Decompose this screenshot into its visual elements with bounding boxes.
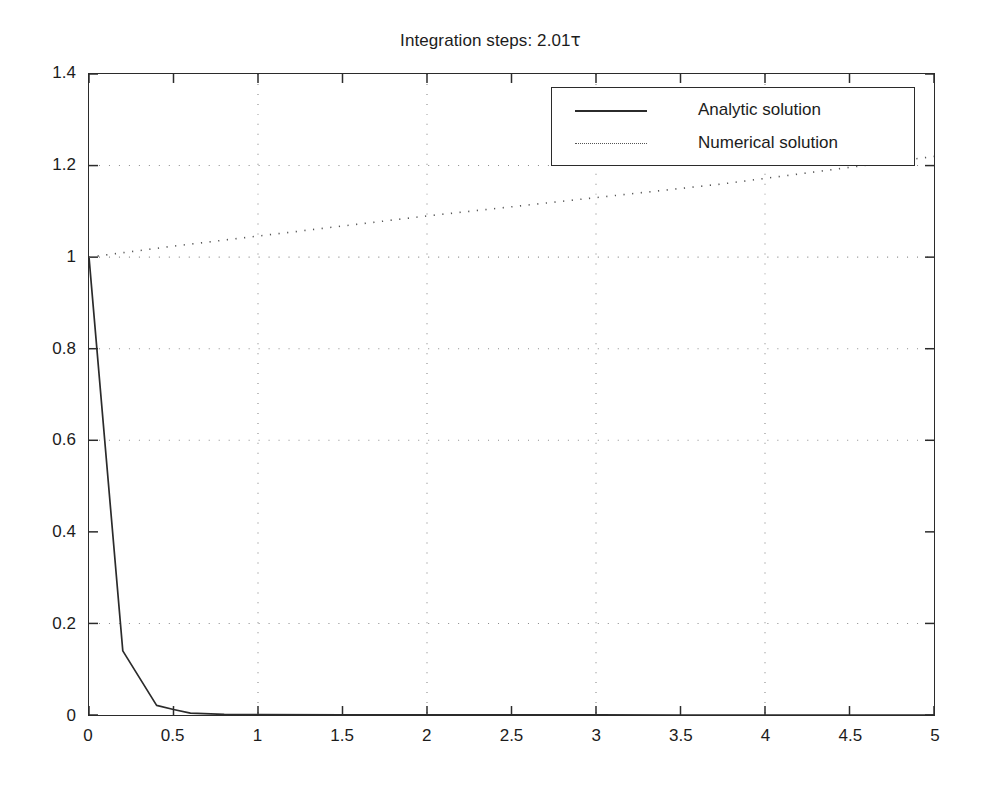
tau-symbol: τ xyxy=(571,30,581,50)
dotted-line-sample-icon xyxy=(575,143,647,144)
chart-legend[interactable]: Analytic solution Numerical solution xyxy=(551,87,915,166)
x-tick-label: 1.5 xyxy=(330,726,354,746)
y-tick-label: 0 xyxy=(67,706,76,726)
y-tick-label: 0.4 xyxy=(52,522,76,542)
y-axis-tick-labels: 00.20.40.60.811.21.4 xyxy=(0,73,76,716)
y-tick-label: 1 xyxy=(67,247,76,267)
x-axis-tick-labels: 00.511.522.533.544.55 xyxy=(88,726,935,752)
y-tick-label: 0.8 xyxy=(52,339,76,359)
x-tick-label: 4 xyxy=(761,726,770,746)
chart-title: Integration steps: 2.01τ xyxy=(0,30,981,51)
series-numerical-solution xyxy=(89,156,934,257)
x-tick-label: 4.5 xyxy=(838,726,862,746)
x-tick-label: 1 xyxy=(253,726,262,746)
chart-title-text: Integration steps: 2.01 xyxy=(400,31,571,50)
legend-label-analytic: Analytic solution xyxy=(698,100,821,120)
series-analytic-solution xyxy=(89,257,934,715)
legend-item-numerical[interactable]: Numerical solution xyxy=(552,127,914,161)
x-tick-label: 2 xyxy=(422,726,431,746)
data-series-layer xyxy=(89,74,934,715)
chart-figure: Integration steps: 2.01τ 00.20.40.60.811… xyxy=(0,0,981,793)
x-tick-label: 0 xyxy=(83,726,92,746)
x-tick-label: 2.5 xyxy=(500,726,524,746)
x-tick-label: 5 xyxy=(930,726,939,746)
y-tick-label: 0.6 xyxy=(52,430,76,450)
x-tick-label: 3.5 xyxy=(669,726,693,746)
x-tick-label: 0.5 xyxy=(161,726,185,746)
x-tick-label: 3 xyxy=(591,726,600,746)
legend-label-numerical: Numerical solution xyxy=(698,133,838,153)
solid-line-sample-icon xyxy=(575,110,647,112)
y-tick-label: 1.2 xyxy=(52,155,76,175)
plot-area xyxy=(88,73,935,716)
y-tick-label: 1.4 xyxy=(52,63,76,83)
legend-item-analytic[interactable]: Analytic solution xyxy=(552,94,914,128)
y-tick-label: 0.2 xyxy=(52,614,76,634)
